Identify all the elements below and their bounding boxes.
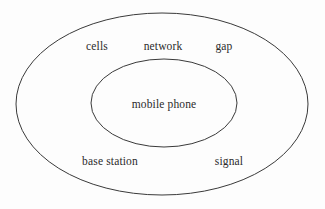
outer-label-cells: cells [86, 40, 108, 53]
diagram-canvas: cellsnetworkgapbase stationsignal mobile… [0, 0, 325, 209]
outer-label-signal: signal [215, 155, 243, 168]
inner-label-mobile-phone: mobile phone [132, 98, 197, 111]
outer-label-base-station: base station [82, 155, 138, 168]
outer-label-network: network [144, 40, 183, 53]
outer-label-gap: gap [215, 40, 232, 53]
